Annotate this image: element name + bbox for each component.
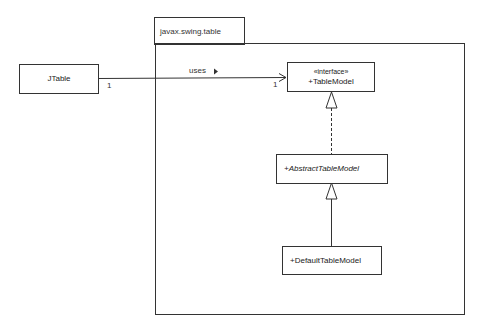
realization-triangle-icon	[326, 92, 337, 108]
class-name: +TableModel	[308, 77, 354, 87]
class-name: +DefaultTableModel	[290, 256, 361, 266]
diagram-lines	[0, 0, 481, 325]
class-tablemodel[interactable]: «interface» +TableModel	[287, 62, 375, 92]
class-jtable[interactable]: JTable	[19, 64, 99, 94]
association-label: uses	[189, 66, 206, 75]
stereotype-label: «interface»	[314, 67, 349, 77]
class-defaulttablemodel[interactable]: +DefaultTableModel	[282, 246, 382, 275]
class-name: JTable	[47, 74, 70, 84]
class-abstracttablemodel[interactable]: +AbstractTableModel	[276, 154, 388, 184]
direction-triangle-icon	[214, 69, 218, 75]
multiplicity-source: 1	[107, 81, 111, 90]
association-line	[98, 78, 286, 79]
package-name: javax.swing.table	[160, 27, 221, 36]
generalization-triangle-icon	[326, 183, 337, 199]
class-name: +AbstractTableModel	[284, 164, 359, 174]
multiplicity-target: 1	[273, 80, 277, 89]
